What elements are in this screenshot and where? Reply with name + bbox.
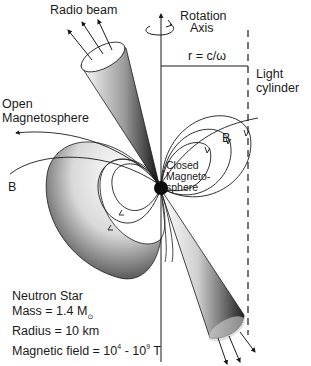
- magnetic-field-line: Magnetic field = 104 - 109 T: [12, 339, 161, 359]
- field-unit: T: [150, 344, 161, 358]
- field-separator: - 10: [121, 344, 146, 358]
- neutron-star-title: Neutron Star: [12, 289, 161, 304]
- neutron-star-properties: Neutron Star Mass = 1.4 M⊙ Radius = 10 k…: [12, 289, 161, 359]
- field-text: Magnetic field = 10: [12, 344, 117, 358]
- pulsar-diagram: Radio beam Rotation Axis r = c/ω Light c…: [0, 0, 311, 366]
- radius-equation-label: r = c/ω: [188, 50, 226, 63]
- open-magnetosphere-label-2: Magnetosphere: [2, 112, 89, 125]
- light-cylinder-label-1: Light: [256, 68, 283, 81]
- radius-line: Radius = 10 km: [12, 324, 161, 339]
- lower-beam-cone: [160, 188, 249, 347]
- b-field-label-left: B: [8, 181, 16, 194]
- radio-beam-label: Radio beam: [50, 4, 117, 17]
- mass-line: Mass = 1.4 M⊙: [12, 304, 161, 324]
- open-magnetosphere-label-1: Open: [2, 98, 33, 111]
- mass-text: Mass = 1.4 M: [12, 304, 87, 318]
- axis-label: Axis: [190, 22, 214, 35]
- closed-magnetosphere-label-3: sphere: [166, 182, 198, 194]
- b-field-label-right: B: [222, 132, 230, 145]
- solar-mass-icon: ⊙: [87, 313, 93, 320]
- light-cylinder-label-2: cylinder: [256, 82, 299, 95]
